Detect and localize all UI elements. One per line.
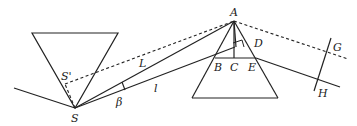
label-C: C — [230, 61, 239, 74]
prism-right-edge — [234, 21, 278, 98]
label-beta: β — [115, 96, 122, 109]
label-D: D — [253, 37, 263, 50]
right-angle-marker — [233, 40, 244, 47]
label-H: H — [317, 87, 328, 100]
label-B: B — [213, 61, 222, 74]
line-l — [75, 47, 235, 108]
geometry-diagram: A B C D E G H S S' L l β — [0, 0, 357, 126]
label-A: A — [229, 6, 238, 19]
label-L: L — [138, 57, 146, 70]
label-l: l — [154, 82, 158, 95]
label-E: E — [247, 61, 256, 74]
dashed-S-prime-A — [65, 21, 234, 84]
label-S-prime: S' — [61, 70, 72, 83]
beta-marker — [122, 82, 125, 90]
label-S: S — [71, 112, 79, 125]
label-G: G — [333, 41, 342, 54]
